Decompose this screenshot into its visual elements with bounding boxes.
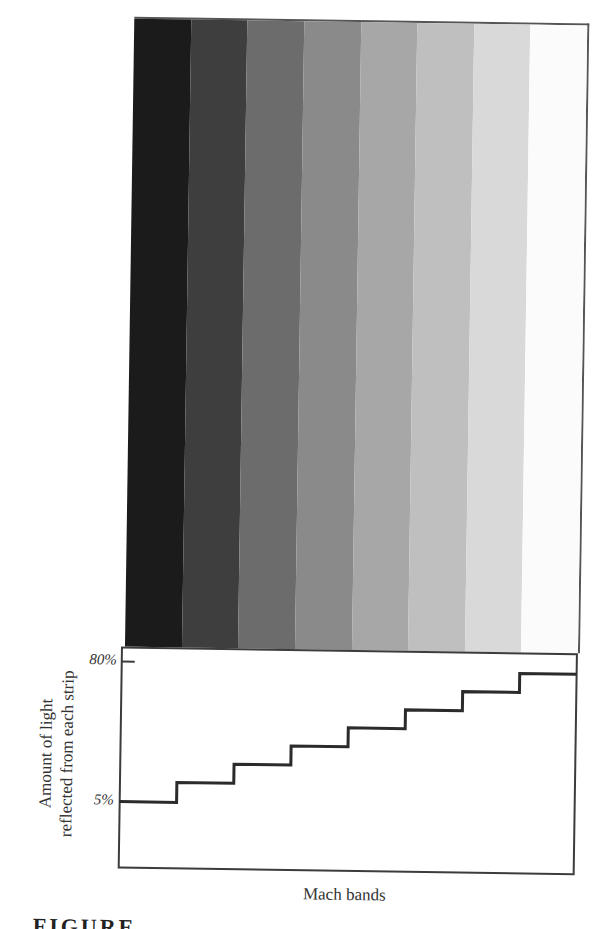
y-axis-label-line-2: reflected from each strip [55, 644, 79, 864]
step-plot [0, 0, 602, 929]
figure-caption: FIGURE [33, 913, 137, 929]
reflectance-step-line [120, 668, 577, 809]
y-axis-label: Amount of light reflected from each stri… [34, 643, 81, 864]
mach-bands-figure: 80% 5% Amount of light reflected from ea… [0, 0, 602, 929]
x-axis-label: Mach bands [289, 884, 399, 906]
